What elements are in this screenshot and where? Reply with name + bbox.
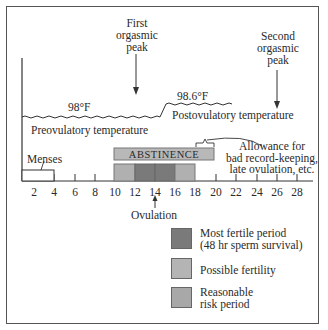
temp-low-label: 98°F	[68, 101, 91, 113]
period-day10-12	[114, 164, 135, 181]
first-peak-label: First orgasmic peak	[112, 17, 162, 53]
first-peak-line3: peak	[112, 41, 162, 53]
day-label: 8	[85, 186, 105, 198]
period-day14-16	[155, 164, 175, 181]
allowance-line3: late ovulation, etc.	[212, 164, 328, 176]
legend-line: risk period	[200, 299, 253, 311]
legend-label-reasonable-risk: Reasonable risk period	[200, 287, 253, 310]
first-peak-line2: orgasmic	[112, 29, 162, 41]
legend-label-possible-fertility: Possible fertility	[200, 264, 276, 276]
legend-swatch-possible-fertility	[171, 258, 192, 279]
day-label: 2	[24, 186, 44, 198]
period-day12-14	[135, 164, 155, 181]
menses-box	[22, 170, 54, 181]
day-label: 10	[105, 186, 125, 198]
temp-high-label: 98.6°F	[177, 90, 208, 102]
preovulatory-label: Preovulatory temperature	[31, 124, 148, 136]
period-day16-18	[175, 164, 195, 181]
day-label: 24	[247, 186, 267, 198]
first-peak-arrowhead	[133, 87, 139, 95]
menses-label: Menses	[27, 153, 62, 165]
legend-line: Reasonable	[200, 287, 253, 299]
day-label: 20	[206, 186, 226, 198]
day-label: 6	[65, 186, 85, 198]
legend-line: Possible fertility	[200, 264, 276, 276]
abstinence-label: ABSTINENCE	[114, 149, 214, 160]
second-peak-label: Second orgasmic peak	[252, 30, 304, 66]
postovulatory-label: Postovulatory temperature	[172, 109, 294, 121]
day-label: 22	[226, 186, 246, 198]
legend-swatch-reasonable-risk	[171, 287, 192, 308]
day-label: 28	[287, 186, 307, 198]
legend-swatch-most-fertile	[171, 228, 192, 249]
second-peak-arrowhead	[274, 101, 280, 109]
ovulation-label: Ovulation	[131, 209, 177, 221]
second-peak-line1: Second	[252, 30, 304, 42]
day-label: 12	[125, 186, 145, 198]
legend-line: Most fertile period	[200, 228, 303, 240]
allowance-label: Allowance for bad record-keeping, late o…	[212, 141, 328, 176]
first-peak-line1: First	[112, 17, 162, 29]
allowance-line1: Allowance for	[212, 141, 328, 153]
second-peak-line2: orgasmic	[252, 42, 304, 54]
second-peak-line3: peak	[252, 54, 304, 66]
day-label: 4	[44, 186, 64, 198]
day-label: 18	[185, 186, 205, 198]
legend-label-most-fertile: Most fertile period (48 hr sperm surviva…	[200, 228, 303, 251]
day-label: 26	[267, 186, 287, 198]
day-label: 14	[145, 186, 165, 198]
day-label: 16	[165, 186, 185, 198]
legend-line: (48 hr sperm survival)	[200, 240, 303, 252]
